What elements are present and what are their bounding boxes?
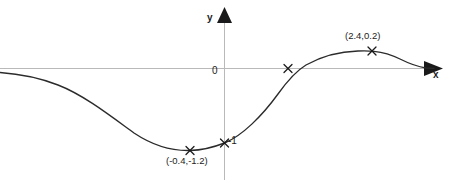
x-axis-label: x: [433, 70, 439, 80]
origin-label: 0: [212, 66, 218, 76]
local-maximum-point-label: (2.4,0.2): [345, 31, 380, 41]
y-tick-label-minus-one: -1: [228, 136, 237, 146]
y-axis-label: y: [207, 13, 213, 23]
plot-canvas: [0, 0, 453, 180]
y-axis-arrowhead-icon: [217, 7, 232, 23]
function-graph-figure: y x 0 -1 (2.4,0.2) (-0.4,-1.2): [0, 0, 453, 180]
local-minimum-point-label: (-0.4,-1.2): [166, 156, 208, 166]
